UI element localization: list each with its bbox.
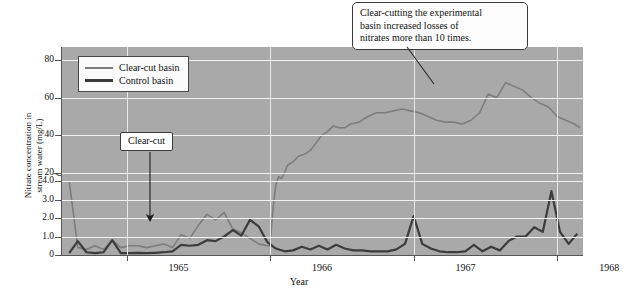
series-line-clear-cut-basin (69, 83, 580, 250)
y-tick (55, 181, 62, 182)
y-tick (55, 218, 62, 219)
y-axis-title-line1: Nitrate concentration in (23, 86, 34, 226)
vertical-gridline (557, 47, 558, 255)
x-tick (127, 255, 128, 261)
gridline (62, 237, 583, 238)
y-tick-label-wrap: 20 (22, 168, 54, 178)
y-tick-label: 60 (26, 93, 54, 102)
y-tick-label: 40 (26, 130, 54, 139)
annotation-callout-main: Clear-cutting the experimental basin inc… (352, 2, 528, 50)
y-tick-label: 1.0 (26, 232, 54, 241)
y-tick (55, 60, 62, 61)
y-tick (55, 98, 62, 99)
legend-item-control-basin: Control basin (85, 74, 180, 87)
y-tick-label: 2.0 (26, 213, 54, 222)
gridline (62, 181, 583, 182)
gridline (62, 218, 583, 219)
annotation-line-3: nitrates more than 10 times. (360, 32, 520, 45)
y-tick-label-wrap: 80 (22, 55, 54, 65)
y-tick-label: 3.0 (26, 195, 54, 204)
y-tick (55, 255, 62, 256)
vertical-gridline (414, 47, 415, 255)
gridline (62, 200, 583, 201)
vertical-gridline (270, 47, 271, 255)
x-tick-label: 1966 (292, 262, 352, 273)
annotation-line-2: basin increased losses of (360, 20, 520, 33)
y-tick-label: 20 (26, 168, 54, 177)
y-tick (55, 200, 62, 201)
x-tick-label: 1968 (579, 262, 624, 273)
y-tick-label: 0 (26, 250, 54, 259)
x-axis-title: Year (0, 276, 598, 287)
y-tick-label-wrap: 1.0 (22, 232, 54, 242)
annotation-line-1: Clear-cutting the experimental (360, 7, 520, 20)
x-tick-label: 1965 (149, 262, 209, 273)
y-tick (55, 135, 62, 136)
gridline (62, 98, 583, 99)
y-tick-label-wrap: 0 (22, 250, 54, 260)
x-tick (414, 255, 415, 261)
annotation-clear-cut-marker: Clear-cut (120, 132, 173, 151)
x-tick (557, 255, 558, 261)
x-tick (270, 255, 271, 261)
y-axis-title-line2: stream water (mg/L) (34, 86, 45, 226)
legend-label-clear-cut-basin: Clear-cut basin (119, 62, 180, 73)
gridline (62, 173, 583, 174)
y-tick-label-wrap: 60 (22, 93, 54, 103)
y-tick (55, 173, 62, 174)
legend-label-control-basin: Control basin (119, 75, 173, 86)
y-tick-label-wrap: 3.0 (22, 195, 54, 205)
y-tick-label-wrap: 2.0 (22, 213, 54, 223)
x-axis-spine (61, 255, 583, 256)
y-tick (55, 237, 62, 238)
legend: Clear-cut basin Control basin (78, 56, 189, 92)
clearcut-line-swatch (85, 67, 113, 69)
y-axis-spine (61, 47, 62, 256)
control-line-swatch (85, 79, 113, 82)
y-tick-label-wrap: 40 (22, 130, 54, 140)
legend-item-clear-cut-basin: Clear-cut basin (85, 61, 180, 74)
x-tick-label: 1967 (436, 262, 496, 273)
y-tick-label: 80 (26, 55, 54, 64)
